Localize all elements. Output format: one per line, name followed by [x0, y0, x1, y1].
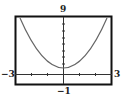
xmin-label: −3 — [1, 70, 15, 79]
ymin-label: −1 — [57, 87, 71, 96]
ymax-label: 9 — [60, 5, 66, 14]
xmax-label: 3 — [114, 70, 120, 79]
